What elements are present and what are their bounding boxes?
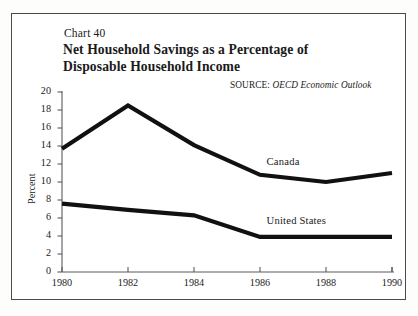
series-line-canada bbox=[62, 106, 392, 183]
series-label-united-states: United States bbox=[267, 215, 326, 226]
y-tick-label: 8 bbox=[29, 193, 51, 204]
y-tick-label: 2 bbox=[29, 247, 51, 258]
y-tick-label: 12 bbox=[29, 157, 51, 168]
series-label-canada: Canada bbox=[267, 156, 300, 167]
data-series bbox=[62, 106, 392, 237]
x-tick-label: 1980 bbox=[42, 277, 82, 288]
y-tick-label: 20 bbox=[29, 85, 51, 96]
plot-area bbox=[0, 0, 418, 316]
x-tick-label: 1988 bbox=[306, 277, 346, 288]
x-tick-label: 1986 bbox=[240, 277, 280, 288]
x-tick-label: 1990 bbox=[372, 277, 412, 288]
x-tick-label: 1984 bbox=[174, 277, 214, 288]
x-tick-label: 1982 bbox=[108, 277, 148, 288]
series-line-united-states bbox=[62, 204, 392, 237]
y-tick-label: 16 bbox=[29, 121, 51, 132]
y-tick-label: 10 bbox=[29, 175, 51, 186]
y-tick-label: 14 bbox=[29, 139, 51, 150]
y-tick-label: 18 bbox=[29, 103, 51, 114]
chart-figure: Chart 40 Net Household Savings as a Perc… bbox=[0, 0, 418, 316]
y-tick-label: 6 bbox=[29, 211, 51, 222]
y-tick-label: 4 bbox=[29, 229, 51, 240]
y-tick-label: 0 bbox=[29, 265, 51, 276]
